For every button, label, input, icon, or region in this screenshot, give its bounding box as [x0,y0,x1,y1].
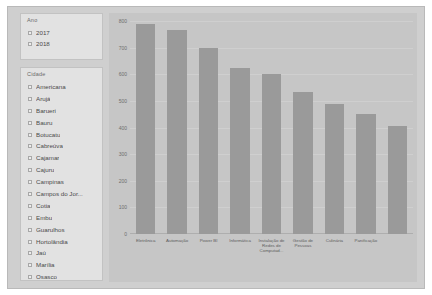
y-axis-tick-label: 500 [119,98,127,104]
filter-option-label: Campinas [36,176,64,188]
plot-area [130,21,413,234]
filter-card-cidade: Cidade AmericanaArujáBarueriBauruBotucat… [20,67,103,281]
report-panel: Ano 20172018 Cidade AmericanaArujáBaruer… [7,6,425,289]
filter-option-cidade[interactable]: Cajuru [25,164,98,176]
filter-title-cidade: Cidade [27,71,98,78]
bar[interactable] [262,74,281,234]
filter-option-label: 2018 [36,38,50,49]
x-axis-tick-label: Eletrônica [131,238,160,243]
y-axis-tick-label: 200 [119,178,127,184]
checkbox-icon[interactable] [28,228,32,232]
bar[interactable] [388,126,407,234]
filter-option-cidade[interactable]: Hortolândia [25,236,98,248]
filter-option-label: Cabreúva [36,140,63,152]
filter-option-label: Americana [36,81,66,93]
checkbox-icon[interactable] [28,121,32,125]
checkbox-icon[interactable] [28,85,32,89]
filter-option-label: Bauru [36,117,53,129]
filters-column: Ano 20172018 Cidade AmericanaArujáBaruer… [20,13,103,281]
filter-option-cidade[interactable]: Osasco [25,271,98,281]
x-axis-tick-label: Automação [163,238,192,243]
y-axis-tick-label: 800 [119,18,127,24]
x-axis-tick-label: Informática [226,238,255,243]
y-axis-tick-label: 600 [119,71,127,77]
y-axis-tick-label: 300 [119,151,127,157]
filter-option-label: Embu [36,212,52,224]
checkbox-icon[interactable] [28,204,32,208]
filter-card-ano: Ano 20172018 [20,13,103,60]
bar[interactable] [230,68,249,234]
checkbox-icon[interactable] [28,156,32,160]
filter-option-cidade[interactable]: Americana [25,81,98,93]
checkbox-icon[interactable] [28,180,32,184]
filter-option-label: Campos do Jor... [36,188,83,200]
checkbox-icon[interactable] [28,31,32,35]
checkbox-icon[interactable] [28,42,32,46]
filter-option-cidade[interactable]: Bauru [25,117,98,129]
filter-option-cidade[interactable]: Arujá [25,93,98,105]
checkbox-icon[interactable] [28,240,32,244]
bar[interactable] [293,92,312,234]
filter-option-cidade[interactable]: Botucatu [25,129,98,141]
filter-option-ano[interactable]: 2018 [25,38,98,49]
filter-option-label: Cajamar [36,152,59,164]
filter-option-label: Osasco [36,271,57,281]
filter-option-label: Marília [36,259,55,271]
filter-option-cidade[interactable]: Jaú [25,247,98,259]
filter-option-label: Cajuru [36,164,54,176]
filter-title-ano: Ano [27,17,98,24]
bar[interactable] [136,24,155,234]
checkbox-icon[interactable] [28,263,32,267]
filter-option-cidade[interactable]: Embu [25,212,98,224]
checkbox-icon[interactable] [28,97,32,101]
bar-chart: 0100200300400500600700800 EletrônicaAuto… [109,13,417,282]
filter-option-cidade[interactable]: Cabreúva [25,140,98,152]
filter-option-label: Cotia [36,200,50,212]
x-axis-tick-label: Panificação [351,238,380,243]
filter-option-label: 2017 [36,27,50,38]
checkbox-icon[interactable] [28,192,32,196]
gridline [130,21,413,22]
filter-option-cidade[interactable]: Guarulhos [25,224,98,236]
checkbox-icon[interactable] [28,109,32,113]
x-axis-tick-label: Culinária [320,238,349,243]
filter-option-label: Arujá [36,93,50,105]
filter-option-cidade[interactable]: Barueri [25,105,98,117]
filter-option-cidade[interactable]: Cajamar [25,152,98,164]
x-axis-tick-label: Gestão de Pessoas [288,238,317,248]
filter-option-label: Botucatu [36,129,60,141]
y-axis-tick-label: 100 [119,204,127,210]
y-axis: 0100200300400500600700800 [109,21,130,234]
checkbox-icon[interactable] [28,133,32,137]
bar[interactable] [167,30,186,234]
checkbox-icon[interactable] [28,168,32,172]
x-axis-tick-label: Instalação de Redes de Computad... [257,238,286,254]
filter-option-cidade[interactable]: Marília [25,259,98,271]
filter-option-cidade[interactable]: Cotia [25,200,98,212]
bar[interactable] [325,104,344,234]
filter-option-label: Hortolândia [36,236,68,248]
y-axis-tick-label: 400 [119,125,127,131]
bar[interactable] [356,114,375,234]
filter-option-label: Guarulhos [36,224,65,236]
filter-options-cidade: AmericanaArujáBarueriBauruBotucatuCabreú… [25,81,98,281]
checkbox-icon[interactable] [28,144,32,148]
checkbox-icon[interactable] [28,251,32,255]
checkbox-icon[interactable] [28,216,32,220]
y-axis-tick-label: 700 [119,45,127,51]
filter-option-cidade[interactable]: Campinas [25,176,98,188]
y-axis-tick-label: 0 [124,231,127,237]
filter-option-label: Barueri [36,105,56,117]
checkbox-icon[interactable] [28,275,32,279]
filter-option-cidade[interactable]: Campos do Jor... [25,188,98,200]
filter-option-label: Jaú [36,247,46,259]
bar[interactable] [199,48,218,234]
filter-option-ano[interactable]: 2017 [25,27,98,38]
x-axis-tick-label: Power BI [194,238,223,243]
filter-options-ano: 20172018 [25,27,98,49]
